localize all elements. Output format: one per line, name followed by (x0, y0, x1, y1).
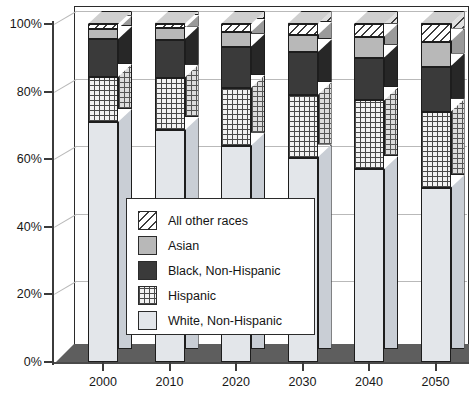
x-axis-tick (102, 362, 104, 371)
y-axis-tick-label: 100% (10, 17, 42, 31)
x-axis-tick-label-2010: 2010 (156, 375, 184, 389)
chart-canvas: 100%80%60%40%20%0% 200020102020203020402… (0, 0, 475, 395)
bar-segment-all-other-races (155, 24, 185, 28)
bar-segment-black-non-hispanic (354, 58, 384, 101)
gridline (76, 79, 467, 80)
legend-swatch-diagonal-hatch-icon (138, 211, 157, 230)
y-axis-tick (44, 361, 53, 363)
bar-segment-black-non-hispanic (221, 47, 251, 88)
bar-segment-hispanic (421, 112, 451, 188)
legend-swatch-solid-light-icon (138, 311, 157, 330)
bar-segment-asian (88, 29, 118, 39)
x-axis-tick (368, 362, 370, 371)
bar-segment-asian (155, 28, 185, 39)
x-axis-tick (435, 362, 437, 371)
gridline (76, 11, 467, 12)
bar-segment-all-other-races (221, 24, 251, 32)
bar-segment-all-other-races (421, 24, 451, 42)
bar-column-2050 (421, 0, 451, 395)
bar-segment-black-non-hispanic (421, 67, 451, 112)
gridline (76, 146, 467, 147)
legend-item-asian[interactable]: Asian (138, 233, 314, 258)
x-axis-tick-label-2020: 2020 (222, 375, 250, 389)
legend-label: White, Non-Hispanic (168, 314, 282, 328)
legend-item-black-non-hispanic[interactable]: Black, Non-Hispanic (138, 258, 314, 283)
bar-segment-side (451, 175, 465, 349)
bar-segment-black-non-hispanic (288, 52, 318, 95)
bar-segment-hispanic (221, 88, 251, 146)
x-axis-tick-label-2040: 2040 (355, 375, 383, 389)
legend-item-hispanic[interactable]: Hispanic (138, 283, 314, 308)
legend-label: Hispanic (168, 289, 216, 303)
legend-swatch-solid-gray-icon (138, 236, 157, 255)
bar-segment-hispanic (354, 100, 384, 169)
x-axis-tick-label-2050: 2050 (422, 375, 450, 389)
bar-segment-black-non-hispanic (155, 40, 185, 78)
legend-item-white-non-hispanic[interactable]: White, Non-Hispanic (138, 308, 314, 333)
x-axis-tick (235, 362, 237, 371)
x-axis-tick (302, 362, 304, 371)
legend-label: Asian (168, 239, 199, 253)
bar-segment-hispanic (88, 77, 118, 122)
bar-segment-asian (354, 37, 384, 58)
y-axis-tick (44, 91, 53, 93)
y-axis-tick-label: 20% (17, 287, 42, 301)
bar-segment-hispanic (288, 95, 318, 157)
legend-swatch-crosshatch-grid-icon (138, 286, 157, 305)
bar-segment-all-other-races (288, 24, 318, 35)
bar-segment-side (318, 145, 332, 349)
bar-column-2000 (88, 0, 118, 395)
chart-legend: All other racesAsianBlack, Non-HispanicH… (126, 198, 315, 335)
bar-segment-side (451, 99, 465, 175)
bar-segment-black-non-hispanic (88, 39, 118, 77)
bar-segment-all-other-races (88, 24, 118, 29)
bar-segment-asian (221, 32, 251, 47)
y-axis-tick (44, 158, 53, 160)
legend-label: Black, Non-Hispanic (168, 264, 281, 278)
x-axis-tick-label-2000: 2000 (89, 375, 117, 389)
y-axis-tick (44, 226, 53, 228)
bar-column-2040 (354, 0, 384, 395)
bar-segment-asian (421, 42, 451, 67)
y-axis-tick-label: 60% (17, 152, 42, 166)
bar-segment-white-non-hispanic (88, 122, 118, 362)
x-axis-tick-label-2030: 2030 (289, 375, 317, 389)
plot-left-wall (54, 6, 76, 364)
bar-segment-white-non-hispanic (421, 188, 451, 362)
y-axis-tick-label: 40% (17, 220, 42, 234)
bar-segment-hispanic (155, 78, 185, 131)
y-axis-tick-label: 0% (24, 355, 42, 369)
y-axis-tick (44, 23, 53, 25)
bar-segment-side (384, 156, 398, 349)
legend-item-all-other-races[interactable]: All other races (138, 208, 314, 233)
y-axis-labels: 100%80%60%40%20%0% (0, 0, 42, 395)
bar-segment-asian (288, 35, 318, 52)
bar-segment-white-non-hispanic (354, 169, 384, 362)
legend-swatch-solid-dark-icon (138, 261, 157, 280)
legend-label: All other races (168, 214, 248, 228)
x-axis-tick (169, 362, 171, 371)
y-axis-tick-label: 80% (17, 85, 42, 99)
y-axis-tick (44, 293, 53, 295)
bar-segment-all-other-races (354, 24, 384, 37)
